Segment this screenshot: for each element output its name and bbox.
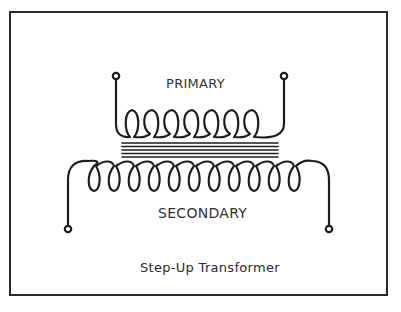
secondary-label: SECONDARY (158, 205, 247, 221)
secondary-coil (65, 161, 332, 233)
primary-label: PRIMARY (166, 76, 225, 91)
iron-core (122, 143, 278, 157)
figure-caption: Step-Up Transformer (140, 260, 280, 275)
